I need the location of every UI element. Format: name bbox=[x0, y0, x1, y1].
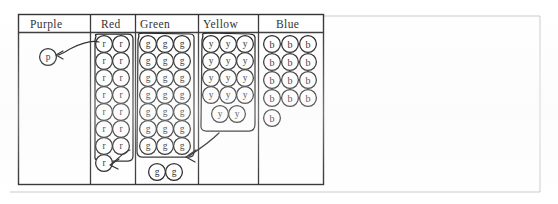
token-circle-green bbox=[157, 104, 174, 121]
token-circle-red bbox=[96, 138, 113, 155]
token-circle-green bbox=[140, 104, 157, 121]
column-header-red: Red bbox=[101, 19, 121, 31]
token-circle-green bbox=[174, 36, 191, 53]
token-circle-red bbox=[113, 70, 130, 87]
token-circle-blue bbox=[300, 72, 317, 89]
token-circle-yellow bbox=[237, 87, 254, 104]
column-header-purple: Purple bbox=[30, 19, 62, 31]
token-circle-green bbox=[149, 164, 166, 181]
token-circle-blue bbox=[264, 110, 281, 127]
token-circle-green bbox=[140, 87, 157, 104]
token-circle-green bbox=[174, 104, 191, 121]
token-circle-yellow bbox=[220, 36, 237, 53]
token-circle-yellow bbox=[237, 36, 254, 53]
token-circles bbox=[40, 36, 317, 181]
token-circle-green bbox=[140, 53, 157, 70]
token-circle-green bbox=[166, 164, 183, 181]
token-circle-red bbox=[113, 36, 130, 53]
token-circle-green bbox=[174, 53, 191, 70]
token-circle-green bbox=[174, 138, 191, 155]
token-circle-green bbox=[140, 121, 157, 138]
token-circle-yellow bbox=[203, 53, 220, 70]
token-circle-blue bbox=[300, 90, 317, 107]
token-circle-yellow bbox=[237, 53, 254, 70]
token-circle-blue bbox=[300, 36, 317, 53]
token-circle-blue bbox=[264, 54, 281, 71]
token-circle-purple bbox=[40, 49, 57, 66]
token-circle-green bbox=[174, 87, 191, 104]
token-circle-green bbox=[157, 53, 174, 70]
token-circle-green bbox=[174, 121, 191, 138]
token-circle-red bbox=[96, 104, 113, 121]
token-circle-blue bbox=[300, 54, 317, 71]
token-circle-red bbox=[96, 121, 113, 138]
token-circle-green bbox=[174, 70, 191, 87]
purple-callout-arrow bbox=[58, 41, 99, 55]
token-circle-green bbox=[140, 36, 157, 53]
token-circle-yellow bbox=[203, 70, 220, 87]
token-circle-yellow bbox=[237, 70, 254, 87]
token-circle-blue bbox=[282, 72, 299, 89]
token-circle-blue bbox=[282, 54, 299, 71]
token-circle-yellow bbox=[203, 87, 220, 104]
token-circle-yellow bbox=[229, 106, 246, 123]
token-circle-red bbox=[96, 70, 113, 87]
worksheet-canvas: PurpleRedGreenYellowBlue prrrrrrrrrrrrrr… bbox=[0, 0, 558, 204]
token-circle-red bbox=[113, 87, 130, 104]
column-header-green: Green bbox=[140, 19, 170, 31]
token-circle-red bbox=[96, 87, 113, 104]
token-circle-green bbox=[157, 121, 174, 138]
column-header-blue: Blue bbox=[276, 19, 299, 31]
token-circle-green bbox=[157, 70, 174, 87]
token-circle-green bbox=[140, 70, 157, 87]
token-circle-yellow bbox=[203, 36, 220, 53]
token-circle-green bbox=[157, 138, 174, 155]
tally-table-drawing bbox=[0, 0, 558, 204]
column-header-yellow: Yellow bbox=[203, 19, 238, 31]
token-circle-red bbox=[113, 104, 130, 121]
token-circle-yellow bbox=[220, 87, 237, 104]
token-circle-yellow bbox=[220, 53, 237, 70]
token-circle-yellow bbox=[212, 106, 229, 123]
token-circle-green bbox=[140, 138, 157, 155]
token-circle-blue bbox=[264, 90, 281, 107]
token-circle-green bbox=[157, 87, 174, 104]
token-circle-red bbox=[113, 53, 130, 70]
token-circle-red bbox=[96, 36, 113, 53]
token-circle-red bbox=[96, 53, 113, 70]
token-circle-blue bbox=[264, 72, 281, 89]
token-circle-red bbox=[96, 155, 113, 172]
token-circle-blue bbox=[282, 36, 299, 53]
token-circle-red bbox=[113, 121, 130, 138]
token-circle-green bbox=[157, 36, 174, 53]
token-circle-blue bbox=[282, 90, 299, 107]
token-circle-blue bbox=[264, 36, 281, 53]
token-circle-yellow bbox=[220, 70, 237, 87]
